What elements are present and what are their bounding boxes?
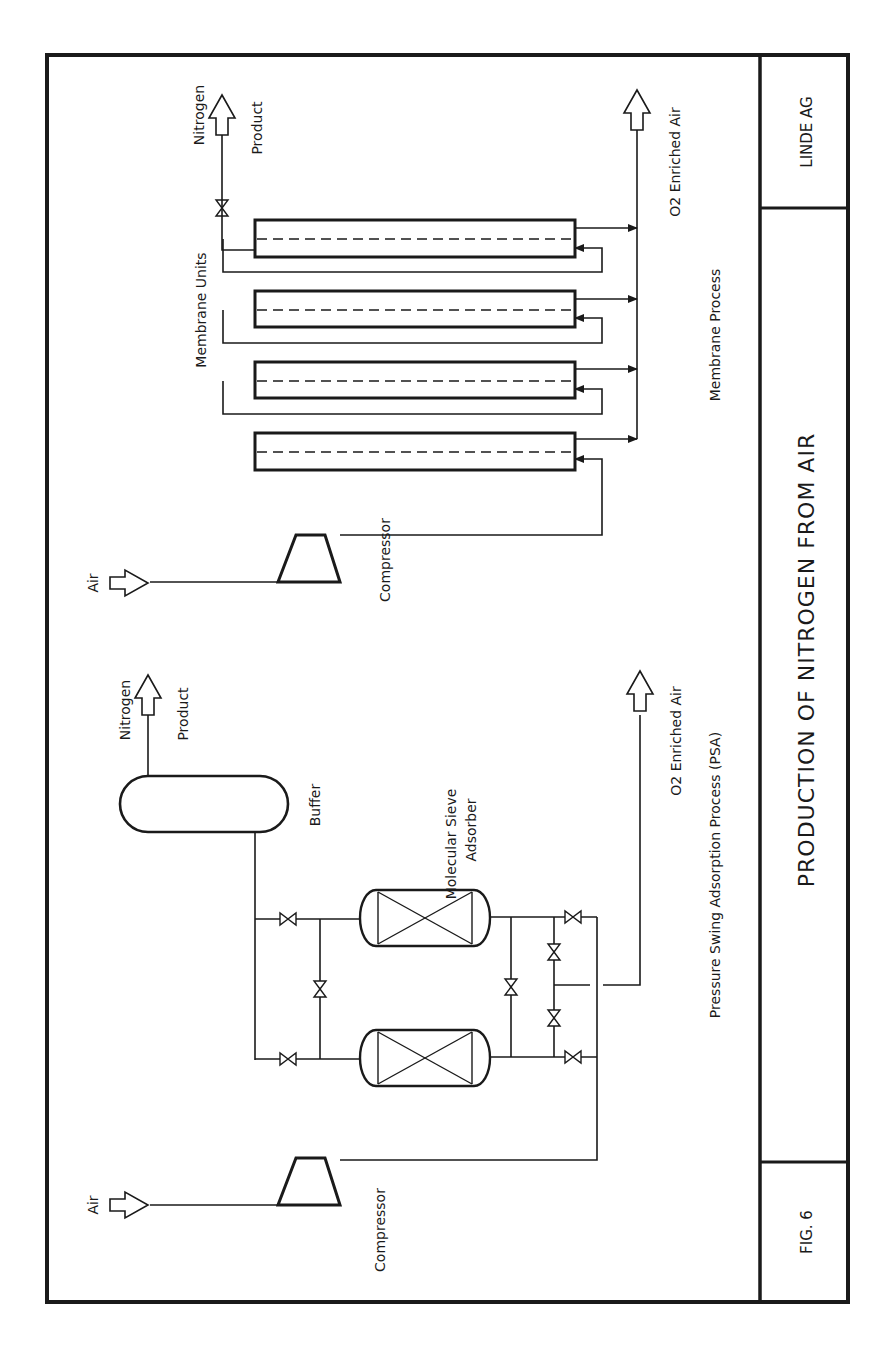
adsorber-b: [360, 1030, 490, 1086]
compressor-icon: [278, 1158, 340, 1205]
valve-icon: [548, 944, 560, 960]
figure-number: FIG. 6: [798, 1210, 816, 1254]
valve-icon: [280, 913, 296, 925]
valve-icon: [314, 981, 326, 997]
nitrogen-product-arrow-icon: [135, 675, 161, 715]
adsorber-label-1: Molecular Sieve: [443, 789, 459, 900]
psa-process: [120, 715, 640, 1205]
psa-air-label: Air: [85, 1195, 101, 1214]
drawing-frame: [47, 55, 848, 1302]
membrane-process: [150, 95, 637, 582]
membrane-unit-3: [255, 362, 575, 398]
psa-compressor-label: Compressor: [372, 1188, 388, 1272]
adsorber-label-2: Adsorber: [463, 798, 479, 861]
membrane-n2-label-1: Nitrogen: [191, 85, 207, 145]
membrane-compressor-label: Compressor: [377, 518, 393, 602]
valve-icon: [280, 1053, 296, 1065]
membrane-unit-2: [255, 291, 575, 327]
buffer-label: Buffer: [307, 784, 323, 827]
air-inlet-arrow-icon: [110, 570, 148, 596]
membrane-o2-label: O2 Enriched Air: [667, 107, 683, 217]
buffer-vessel: [120, 776, 288, 832]
valve-icon: [548, 1010, 560, 1026]
company-label: LINDE AG: [798, 96, 816, 167]
psa-process-label: Pressure Swing Adsorption Process (PSA): [707, 732, 723, 1018]
drawing-title: PRODUCTION OF NITROGEN FROM AIR: [794, 433, 819, 887]
membrane-air-label: Air: [85, 573, 101, 592]
psa-o2-label: O2 Enriched Air: [668, 686, 684, 796]
nitrogen-product-arrow-icon: [209, 95, 235, 135]
psa-n2-label-1: Nitrogen: [117, 680, 133, 740]
compressor-icon: [278, 535, 340, 582]
psa-valves: [280, 911, 581, 1065]
o2-enriched-arrow-icon: [624, 90, 650, 130]
membrane-units-label: Membrane Units: [193, 252, 209, 367]
membrane-unit-4: [255, 433, 575, 470]
valve-icon: [565, 1051, 581, 1063]
adsorber-a: [360, 890, 490, 946]
membrane-process-label: Membrane Process: [707, 269, 723, 402]
membrane-unit-1: [255, 220, 575, 257]
valve-icon: [565, 911, 581, 923]
process-flow-diagram: LINDE AG PRODUCTION OF NITROGEN FROM AIR…: [0, 0, 894, 1349]
psa-n2-label-2: Product: [175, 687, 191, 741]
air-inlet-arrow-icon: [110, 1192, 148, 1218]
valve-icon: [505, 979, 517, 995]
membrane-n2-label-2: Product: [249, 101, 265, 155]
o2-enriched-arrow-icon: [627, 671, 653, 711]
